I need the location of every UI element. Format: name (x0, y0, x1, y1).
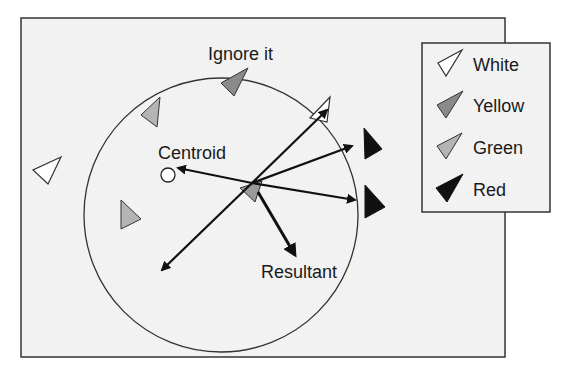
ignore-label: Ignore it (208, 44, 273, 64)
legend-label-yellow: Yellow (473, 96, 525, 116)
legend-label-green: Green (473, 138, 523, 158)
flocking-diagram: Ignore it Centroid Resultant White Yello… (0, 0, 587, 386)
legend: White Yellow Green Red (422, 43, 550, 212)
resultant-label: Resultant (261, 262, 337, 282)
legend-label-white: White (473, 55, 519, 75)
legend-label-red: Red (473, 180, 506, 200)
centroid-label: Centroid (158, 143, 226, 163)
centroid-marker (161, 168, 175, 182)
